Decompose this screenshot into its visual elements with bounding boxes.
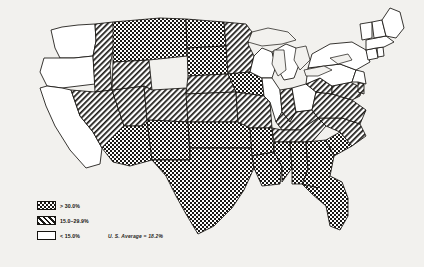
legend-item-high: > 30.0% xyxy=(37,198,89,213)
state-RI xyxy=(377,47,384,57)
state-ND xyxy=(186,19,226,48)
legend-swatch-mid xyxy=(37,216,56,225)
us-choropleth-map: > 30.0% 15.0–29.9% < 15.0% U. S. Average… xyxy=(0,0,424,267)
lake-superior xyxy=(248,28,296,46)
legend-item-mid: 15.0–29.9% xyxy=(37,213,89,228)
state-DE xyxy=(358,82,364,94)
state-CO xyxy=(144,86,188,122)
state-NM xyxy=(147,120,190,160)
state-OK xyxy=(188,122,252,148)
state-SD xyxy=(187,46,228,76)
legend-label-high: > 30.0% xyxy=(60,203,80,209)
state-KS xyxy=(186,92,238,122)
legend-item-low: < 15.0% xyxy=(37,228,89,243)
state-AR xyxy=(250,128,274,156)
states-layer xyxy=(40,8,404,234)
national-average-note: U. S. Average = 18.2% xyxy=(108,233,163,239)
legend-swatch-high xyxy=(37,201,56,210)
legend-label-low: < 15.0% xyxy=(60,233,80,239)
legend-label-mid: 15.0–29.9% xyxy=(60,218,89,224)
state-MN xyxy=(224,22,254,74)
legend-swatch-low xyxy=(37,231,56,240)
state-TX xyxy=(152,148,254,234)
state-ME xyxy=(382,8,404,38)
state-WA xyxy=(51,24,96,58)
state-WY xyxy=(112,60,152,90)
state-OR xyxy=(40,56,95,88)
map-legend: > 30.0% 15.0–29.9% < 15.0% xyxy=(37,198,89,243)
state-MT xyxy=(113,18,187,62)
state-NE xyxy=(186,74,236,94)
state-VT xyxy=(360,22,372,40)
